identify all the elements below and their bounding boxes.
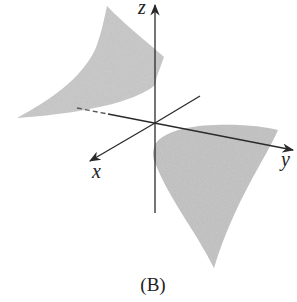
upper-surface-sheet: [17, 6, 164, 118]
x-axis: [90, 123, 155, 161]
x-axis-label: x: [91, 160, 101, 182]
figure-caption: (B): [0, 274, 297, 296]
x-axis-back: [155, 96, 200, 123]
y-axis-label: y: [279, 148, 290, 171]
y-axis-hidden: [77, 108, 108, 114]
lower-surface-sheet: [153, 125, 278, 268]
3d-surface-diagram: z x y: [0, 0, 297, 302]
z-axis-label: z: [137, 0, 146, 18]
